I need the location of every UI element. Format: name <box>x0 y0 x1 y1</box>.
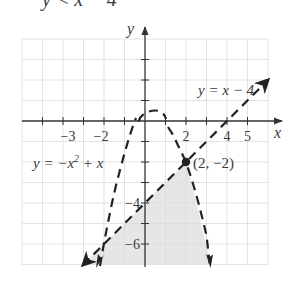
x-tick-label-2: 2 <box>183 129 190 144</box>
y-tick-label-neg6: −6 <box>125 237 140 252</box>
line-equation-label: y = x − 4 <box>196 82 255 98</box>
x-axis-label: x <box>273 124 281 141</box>
y-axis-label: y <box>125 20 135 38</box>
inequality-heading: y < x − 4 <box>40 0 117 11</box>
graph-figure: y < x − 4 <box>0 0 292 295</box>
intersection-point-label: (2, −2) <box>193 155 234 172</box>
x-tick-label-neg3: −3 <box>61 129 76 144</box>
parabola-label-suffix: + x <box>79 155 104 171</box>
parabola-equation-label: y = −x2 + x <box>31 153 104 171</box>
intersection-point <box>182 158 190 166</box>
x-tick-label-neg2: −2 <box>94 129 109 144</box>
x-tick-label-4: 4 <box>224 129 231 144</box>
parabola-label-prefix: y = −x <box>31 155 74 171</box>
x-tick-label-5: 5 <box>244 129 251 144</box>
